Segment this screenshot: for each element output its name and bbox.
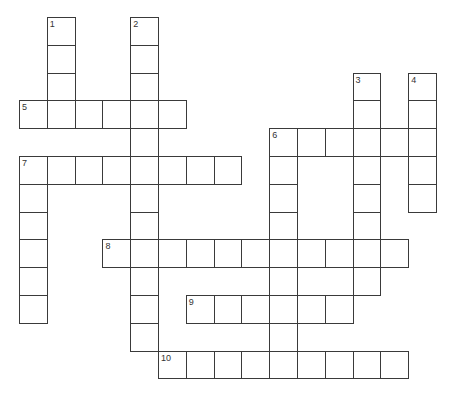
crossword-cell[interactable] [214,295,243,324]
crossword-cell[interactable]: 10 [158,351,187,380]
clue-number: 7 [22,158,27,168]
crossword-cell[interactable] [214,351,243,380]
clue-number: 5 [22,102,27,112]
crossword-cell[interactable] [47,156,76,185]
crossword-cell[interactable] [353,239,382,268]
clue-number: 6 [272,130,277,140]
crossword-grid: 12345678910 [0,0,452,407]
crossword-cell[interactable] [19,267,48,296]
crossword-cell[interactable] [130,267,159,296]
clue-number: 10 [161,353,171,363]
crossword-cell[interactable] [130,128,159,157]
crossword-cell[interactable] [130,323,159,352]
crossword-cell[interactable] [158,100,187,129]
crossword-cell[interactable] [158,239,187,268]
clue-number: 9 [189,297,194,307]
crossword-cell[interactable]: 4 [408,73,437,102]
crossword-cell[interactable] [214,239,243,268]
crossword-cell[interactable] [269,323,298,352]
crossword-cell[interactable] [297,295,326,324]
crossword-cell[interactable]: 8 [102,239,131,268]
crossword-cell[interactable] [353,351,382,380]
crossword-cell[interactable] [297,128,326,157]
crossword-cell[interactable] [130,295,159,324]
clue-number: 8 [105,241,110,251]
crossword-cell[interactable] [102,100,131,129]
crossword-cell[interactable]: 1 [47,17,76,46]
crossword-cell[interactable]: 2 [130,17,159,46]
crossword-cell[interactable] [269,295,298,324]
crossword-cell[interactable] [130,184,159,213]
crossword-cell[interactable] [19,184,48,213]
crossword-cell[interactable]: 5 [19,100,48,129]
crossword-cell[interactable]: 3 [353,73,382,102]
crossword-cell[interactable] [130,156,159,185]
crossword-cell[interactable] [269,351,298,380]
clue-number: 1 [50,19,55,29]
crossword-cell[interactable] [47,100,76,129]
crossword-cell[interactable] [269,212,298,241]
crossword-cell[interactable]: 6 [269,128,298,157]
crossword-cell[interactable] [19,239,48,268]
crossword-cell[interactable] [214,156,243,185]
crossword-cell[interactable]: 7 [19,156,48,185]
crossword-cell[interactable] [408,184,437,213]
crossword-cell[interactable] [47,73,76,102]
crossword-cell[interactable] [241,295,270,324]
crossword-cell[interactable] [353,212,382,241]
crossword-cell[interactable] [380,351,409,380]
crossword-cell[interactable] [325,295,354,324]
crossword-cell[interactable] [241,239,270,268]
crossword-cell[interactable] [269,239,298,268]
crossword-cell[interactable] [269,184,298,213]
crossword-cell[interactable] [130,73,159,102]
crossword-cell[interactable] [158,156,187,185]
crossword-cell[interactable] [325,239,354,268]
crossword-cell[interactable] [130,45,159,74]
clue-number: 3 [356,75,361,85]
crossword-cell[interactable] [353,156,382,185]
crossword-cell[interactable] [325,351,354,380]
crossword-cell[interactable] [241,351,270,380]
crossword-cell[interactable] [408,100,437,129]
crossword-cell[interactable] [325,128,354,157]
crossword-cell[interactable] [130,239,159,268]
crossword-cell[interactable] [353,100,382,129]
crossword-cell[interactable] [130,100,159,129]
crossword-cell[interactable] [380,128,409,157]
crossword-cell[interactable] [47,45,76,74]
crossword-cell[interactable] [19,295,48,324]
crossword-cell[interactable]: 9 [186,295,215,324]
crossword-cell[interactable] [408,128,437,157]
crossword-cell[interactable] [297,239,326,268]
crossword-cell[interactable] [380,239,409,268]
crossword-cell[interactable] [353,128,382,157]
crossword-cell[interactable] [408,156,437,185]
clue-number: 4 [411,75,416,85]
crossword-cell[interactable] [269,267,298,296]
clue-number: 2 [133,19,138,29]
crossword-cell[interactable] [353,267,382,296]
crossword-cell[interactable] [186,156,215,185]
crossword-cell[interactable] [75,156,104,185]
crossword-cell[interactable] [186,351,215,380]
crossword-cell[interactable] [353,184,382,213]
crossword-cell[interactable] [130,212,159,241]
crossword-cell[interactable] [297,351,326,380]
crossword-cell[interactable] [75,100,104,129]
crossword-cell[interactable] [269,156,298,185]
crossword-cell[interactable] [186,239,215,268]
crossword-cell[interactable] [102,156,131,185]
crossword-cell[interactable] [19,212,48,241]
